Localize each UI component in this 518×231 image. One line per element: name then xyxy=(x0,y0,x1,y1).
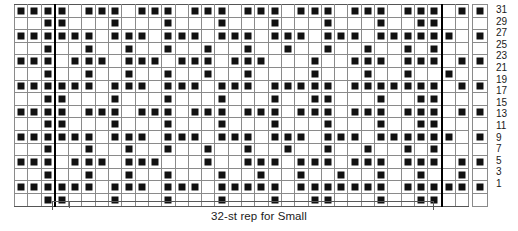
chart-row xyxy=(15,30,469,43)
chart-cell-empty xyxy=(69,168,82,181)
chart-cell-filled xyxy=(401,30,414,43)
chart-cell-empty xyxy=(228,5,241,18)
chart-cell-filled xyxy=(268,93,281,106)
chart-cell-filled xyxy=(401,5,414,18)
chart-cell-filled xyxy=(268,5,281,18)
stitch-chart-grid xyxy=(14,4,469,207)
chart-cell-filled xyxy=(268,105,281,118)
chart-cell-filled xyxy=(215,168,228,181)
chart-cell-empty xyxy=(95,118,108,131)
chart-cell-filled xyxy=(281,130,294,143)
chart-cell-filled xyxy=(388,130,401,143)
chart-cell-filled xyxy=(55,105,69,118)
chart-cell-empty xyxy=(414,143,427,156)
chart-row xyxy=(15,80,469,93)
chart-cell-filled xyxy=(162,5,175,18)
chart-cell-empty xyxy=(69,17,82,30)
key-row xyxy=(473,168,488,181)
chart-cell-filled xyxy=(162,118,175,131)
key-cell-filled xyxy=(473,5,488,18)
row-number-label: 27 xyxy=(496,27,518,39)
chart-cell-empty xyxy=(335,17,348,30)
chart-cell-filled xyxy=(268,156,281,169)
chart-cell-empty xyxy=(268,55,281,68)
chart-cell-filled xyxy=(321,130,334,143)
chart-cell-filled xyxy=(428,118,442,131)
key-row xyxy=(473,93,488,106)
chart-cell-filled xyxy=(188,181,201,194)
chart-cell-empty xyxy=(388,55,401,68)
chart-cell-filled xyxy=(295,130,308,143)
key-row xyxy=(473,67,488,80)
chart-cell-filled xyxy=(335,168,348,181)
chart-cell-filled xyxy=(28,30,41,43)
chart-cell-filled xyxy=(202,5,215,18)
chart-cell-empty xyxy=(388,118,401,131)
chart-cell-empty xyxy=(388,42,401,55)
chart-cell-empty xyxy=(255,118,268,131)
chart-cell-empty xyxy=(295,67,308,80)
chart-cell-empty xyxy=(175,156,188,169)
chart-cell-empty xyxy=(28,67,41,80)
chart-cell-filled xyxy=(375,181,388,194)
chart-cell-filled xyxy=(215,5,228,18)
chart-cell-filled xyxy=(414,5,427,18)
chart-cell-filled xyxy=(55,30,69,43)
chart-cell-empty xyxy=(135,143,148,156)
chart-cell-filled xyxy=(162,181,175,194)
chart-cell-empty xyxy=(242,168,255,181)
key-cell-empty xyxy=(473,168,488,181)
chart-cell-empty xyxy=(335,42,348,55)
chart-cell-filled xyxy=(242,55,255,68)
chart-cell-empty xyxy=(202,168,215,181)
chart-cell-empty xyxy=(281,168,294,181)
row-number-axis: 312927252321191715131197531 xyxy=(496,4,518,190)
chart-cell-filled xyxy=(175,80,188,93)
chart-cell-filled xyxy=(375,156,388,169)
chart-cell-empty xyxy=(442,193,456,206)
chart-cell-filled xyxy=(242,5,255,18)
chart-cell-empty xyxy=(55,156,69,169)
chart-cell-empty xyxy=(95,130,108,143)
chart-cell-empty xyxy=(15,17,28,30)
chart-cell-filled xyxy=(135,181,148,194)
chart-cell-filled xyxy=(15,55,28,68)
chart-cell-filled xyxy=(361,105,374,118)
chart-cell-filled xyxy=(242,130,255,143)
chart-cell-empty xyxy=(414,67,427,80)
key-row xyxy=(473,80,488,93)
chart-cell-empty xyxy=(335,80,348,93)
chart-cell-filled xyxy=(428,105,442,118)
chart-cell-filled xyxy=(82,130,95,143)
chart-cell-filled xyxy=(335,30,348,43)
chart-cell-empty xyxy=(109,67,122,80)
chart-cell-filled xyxy=(135,105,148,118)
chart-cell-filled xyxy=(295,156,308,169)
chart-cell-filled xyxy=(15,5,28,18)
chart-cell-empty xyxy=(122,93,135,106)
chart-cell-filled xyxy=(361,181,374,194)
chart-cell-filled xyxy=(215,105,228,118)
chart-cell-filled xyxy=(268,181,281,194)
chart-cell-filled xyxy=(375,93,388,106)
chart-cell-filled xyxy=(401,55,414,68)
chart-cell-empty xyxy=(228,156,241,169)
chart-cell-filled xyxy=(55,130,69,143)
chart-cell-filled xyxy=(321,5,334,18)
chart-cell-filled xyxy=(162,130,175,143)
key-column-body xyxy=(473,5,488,207)
row-number-label: 17 xyxy=(496,85,518,97)
chart-cell-empty xyxy=(188,143,201,156)
chart-cell-empty xyxy=(175,5,188,18)
chart-cell-filled xyxy=(202,156,215,169)
chart-cell-filled xyxy=(442,130,456,143)
chart-cell-filled xyxy=(148,156,161,169)
chart-cell-empty xyxy=(295,143,308,156)
chart-cell-filled xyxy=(41,55,55,68)
chart-cell-empty xyxy=(95,80,108,93)
chart-cell-empty xyxy=(335,55,348,68)
key-cell-empty xyxy=(473,143,488,156)
key-row xyxy=(473,130,488,143)
chart-cell-empty xyxy=(28,93,41,106)
chart-cell-filled xyxy=(308,93,321,106)
